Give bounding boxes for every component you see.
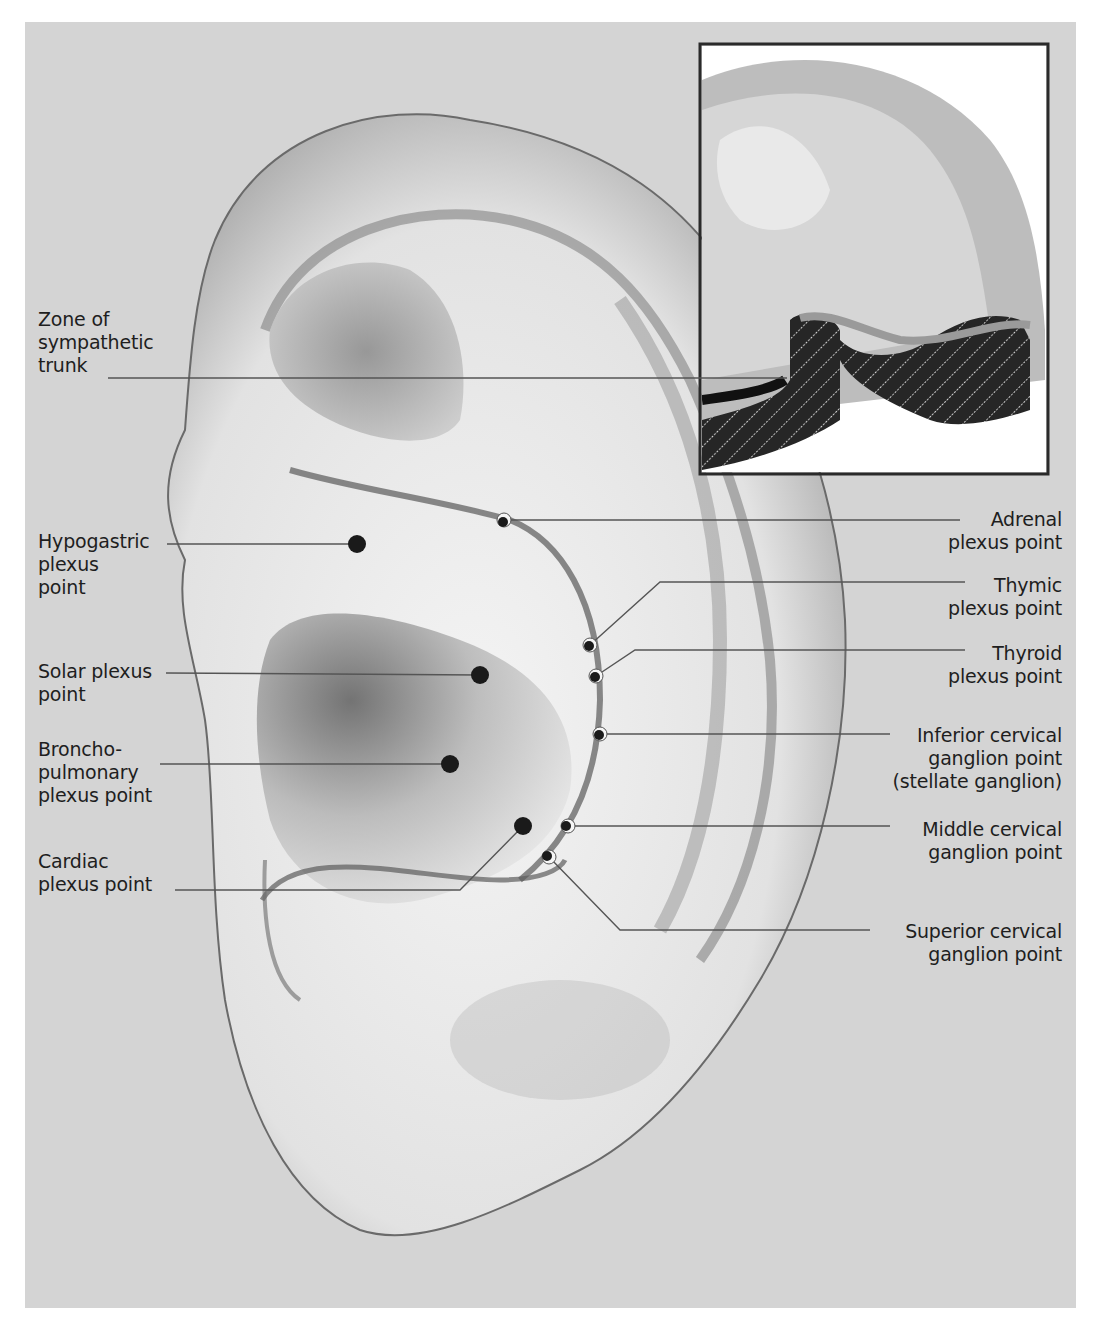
adrenal-point xyxy=(497,513,511,527)
label-middle-cervical-ganglion: Middle cervical ganglion point xyxy=(922,818,1062,864)
label-cardiac-plexus: Cardiac plexus point xyxy=(38,850,152,896)
solar-plexus-point xyxy=(471,666,489,684)
label-zone-sympathetic-trunk: Zone of sympathetic trunk xyxy=(38,308,154,377)
bronchopulmonary-point xyxy=(441,755,459,773)
label-adrenal-plexus: Adrenal plexus point xyxy=(948,508,1062,554)
thyroid-point xyxy=(589,669,603,683)
label-inferior-cervical-ganglion: Inferior cervical ganglion point (stella… xyxy=(893,724,1062,793)
label-superior-cervical-ganglion: Superior cervical ganglion point xyxy=(905,920,1062,966)
inferior-cervical-point xyxy=(593,727,607,741)
middle-cervical-point xyxy=(561,819,575,833)
cardiac-point xyxy=(514,817,532,835)
hypogastric-point xyxy=(348,535,366,553)
label-hypogastric-plexus: Hypogastric plexus point xyxy=(38,530,150,599)
label-bronchopulmonary-plexus: Broncho- pulmonary plexus point xyxy=(38,738,152,807)
ear-illustration xyxy=(0,0,1098,1329)
label-thyroid-plexus: Thyroid plexus point xyxy=(948,642,1062,688)
thymic-point xyxy=(583,638,597,652)
label-solar-plexus: Solar plexus point xyxy=(38,660,152,706)
label-thymic-plexus: Thymic plexus point xyxy=(948,574,1062,620)
superior-cervical-point xyxy=(542,850,556,864)
inset-detail xyxy=(702,46,1046,472)
